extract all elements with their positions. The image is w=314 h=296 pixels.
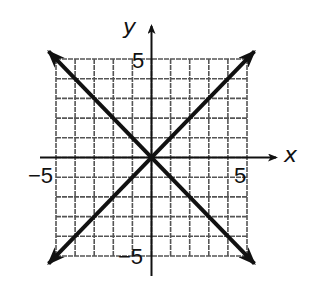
y-axis-label: y xyxy=(123,16,136,38)
y-tick-label-neg: −5 xyxy=(118,246,143,268)
x-tick-label-pos: 5 xyxy=(234,165,246,187)
x-axis-label: x xyxy=(284,144,297,166)
coordinate-plane xyxy=(0,0,314,296)
x-tick-label-neg: −5 xyxy=(28,165,53,187)
y-tick-label-pos: 5 xyxy=(132,50,144,72)
